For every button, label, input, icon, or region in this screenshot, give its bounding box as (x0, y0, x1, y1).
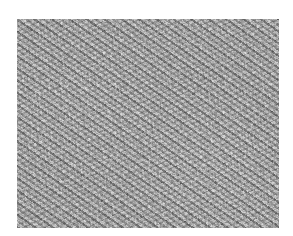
histology-micrograph (17, 19, 279, 228)
nuclei-texture (17, 19, 279, 228)
